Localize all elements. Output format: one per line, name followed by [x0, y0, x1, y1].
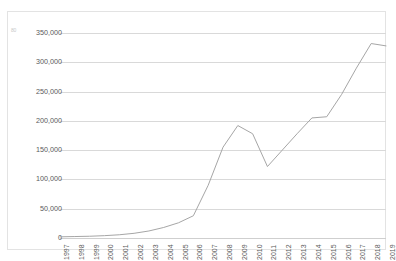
x-tick-label: 2017 [359, 240, 366, 260]
x-tick-label: 2007 [211, 240, 218, 260]
x-tick-label: 1999 [93, 240, 100, 260]
x-tick-label: 2000 [107, 240, 114, 260]
x-tick-label: 2003 [152, 240, 159, 260]
x-tick-label: 2019 [389, 240, 396, 260]
x-tick-label: 2018 [374, 240, 381, 260]
x-tick-label: 1997 [63, 240, 70, 260]
x-tick-label: 2013 [300, 240, 307, 260]
x-tick-label: 2008 [226, 240, 233, 260]
x-tick-label: 2016 [345, 240, 352, 260]
x-tick-label: 2012 [285, 240, 292, 260]
x-tick-label: 2014 [315, 240, 322, 260]
x-tick-label: 2010 [256, 240, 263, 260]
x-tick-label: 2004 [167, 240, 174, 260]
x-tick-label: 2011 [270, 240, 277, 260]
series-line [60, 44, 386, 237]
x-tick-label: 2006 [196, 240, 203, 260]
x-tick-label: 2001 [122, 240, 129, 260]
x-axis-ticks: 1997199819992000200120022003200420052006… [60, 240, 386, 261]
x-tick-label: 2009 [241, 240, 248, 260]
x-tick-label: 1998 [78, 240, 85, 260]
x-tick-label: 2002 [137, 240, 144, 260]
x-tick-label: 2005 [182, 240, 189, 260]
x-tick-label: 2015 [330, 240, 337, 260]
